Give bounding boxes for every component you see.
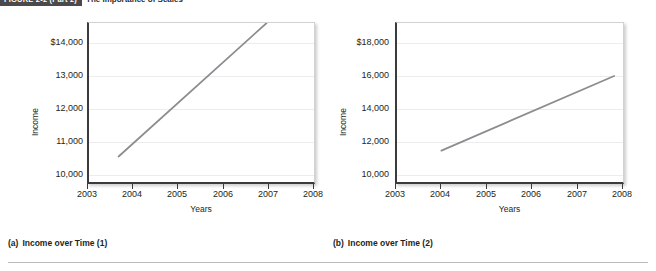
y-tick-label-b-18000: $18,000	[341, 38, 389, 47]
x-tick-label-a-2004: 2004	[115, 190, 149, 199]
y-tick-label-a-14000: $14,000	[37, 38, 83, 47]
x-tick-label-a-2007: 2007	[251, 190, 285, 199]
y-tick-label-b-16000: 16,000	[341, 71, 389, 80]
plot-area-b	[395, 22, 624, 184]
x-tick-label-b-2003: 2003	[378, 190, 412, 199]
figure-number-tag: FIGURE 2-2 (Part 2)	[0, 0, 82, 6]
trend-line-a	[89, 23, 314, 182]
y-tick-label-b-10000: 10,000	[341, 170, 389, 179]
bottom-divider	[8, 262, 648, 263]
x-tick-label-b-2007: 2007	[560, 190, 594, 199]
x-tick-label-a-2008: 2008	[296, 190, 330, 199]
caption-text-a: Income over Time (1)	[22, 238, 107, 248]
caption-letter-b: (b)	[333, 238, 344, 248]
chart-caption-a: (a)Income over Time (1)	[8, 238, 107, 248]
figure-title: The Importance of Scales	[86, 0, 183, 6]
x-tick-label-b-2004: 2004	[423, 190, 457, 199]
chart-caption-b: (b)Income over Time (2)	[333, 238, 433, 248]
y-tick-label-b-14000: 14,000	[341, 104, 389, 113]
x-tick-label-a-2003: 2003	[70, 190, 104, 199]
x-axis-label-a: Years	[87, 204, 315, 214]
caption-letter-a: (a)	[8, 238, 18, 248]
plot-area-wrapper-a	[87, 22, 315, 184]
y-tick-label-b-12000: 12,000	[341, 137, 389, 146]
y-tick-label-a-11000: 11,000	[37, 137, 83, 146]
y-tick-label-a-12000: 12,000	[37, 104, 83, 113]
x-tick-label-a-2006: 2006	[206, 190, 240, 199]
x-axis-label-b: Years	[395, 204, 624, 214]
x-tick-label-b-2006: 2006	[514, 190, 548, 199]
y-tick-label-a-13000: 13,000	[37, 71, 83, 80]
figure-header: FIGURE 2-2 (Part 2) The Importance of Sc…	[0, 0, 656, 7]
x-tick-label-a-2005: 2005	[160, 190, 194, 199]
caption-text-b: Income over Time (2)	[348, 238, 433, 248]
x-tick-label-b-2008: 2008	[605, 190, 639, 199]
plot-area-a	[87, 22, 315, 184]
x-tick-label-b-2005: 2005	[469, 190, 503, 199]
y-tick-label-a-10000: 10,000	[37, 170, 83, 179]
plot-area-wrapper-b	[395, 22, 624, 184]
trend-line-b	[397, 23, 623, 182]
